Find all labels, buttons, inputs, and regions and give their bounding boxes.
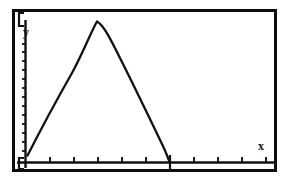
calculator-screen-frame [12,9,277,172]
y-axis-label: y [23,26,29,38]
calculator-screenshot: y x [0,0,288,187]
x-axis-label: x [258,140,264,152]
